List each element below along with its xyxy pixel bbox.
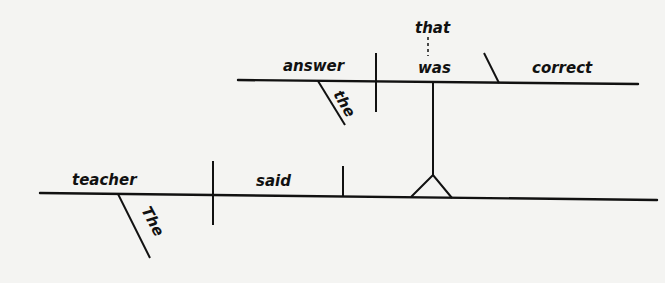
word-The: The [137,203,167,239]
word-the: the [330,87,360,120]
word-correct: correct [532,59,593,77]
word-teacher: teacher [72,171,138,189]
pedestal [411,175,452,198]
word-said: said [256,172,291,190]
main-baseline [40,193,657,200]
predicate-adjective-divider [484,53,499,83]
word-answer: answer [283,57,346,75]
clause-baseline [238,80,638,84]
sentence-diagram: answer was that correct the teacher said… [0,0,665,283]
word-was: was [418,59,451,77]
word-that: that [415,19,451,37]
